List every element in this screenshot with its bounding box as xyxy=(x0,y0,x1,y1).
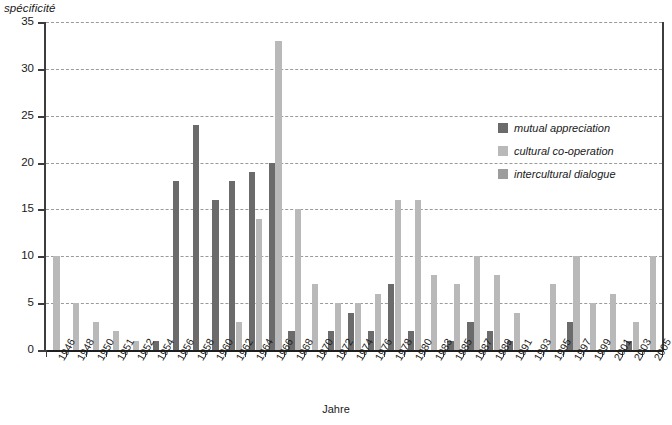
bar xyxy=(193,125,199,350)
y-axis-tick xyxy=(38,69,46,71)
bar xyxy=(269,163,275,350)
clipped-header-strip xyxy=(0,0,672,7)
bar xyxy=(229,181,235,350)
y-axis-tick xyxy=(38,256,46,258)
bar xyxy=(295,209,301,350)
bar xyxy=(212,200,218,350)
y-axis-tick xyxy=(38,350,46,352)
plot-inner: 05101520253035 xyxy=(46,22,662,350)
y-axis-tick-label: 30 xyxy=(21,63,34,75)
gridline xyxy=(46,22,662,23)
plot-area: 05101520253035 mutual appreciation cultu… xyxy=(44,22,664,352)
bar xyxy=(650,256,656,350)
gridline xyxy=(46,116,662,117)
chart-legend: mutual appreciation cultural co-operatio… xyxy=(498,122,616,180)
gridline xyxy=(46,69,662,70)
legend-swatch-cultural-co-operation xyxy=(498,146,508,156)
legend-item: mutual appreciation xyxy=(498,122,616,134)
legend-label: cultural co-operation xyxy=(514,145,614,157)
y-axis-tick xyxy=(38,303,46,305)
bar xyxy=(395,200,401,350)
y-axis-tick xyxy=(38,209,46,211)
legend-label: intercultural dialogue xyxy=(514,168,616,180)
y-axis-tick-label: 25 xyxy=(21,110,34,122)
legend-label: mutual appreciation xyxy=(514,122,610,134)
bar xyxy=(474,256,480,350)
legend-swatch-mutual-appreciation xyxy=(498,123,508,133)
y-axis-tick-label: 20 xyxy=(21,157,34,169)
bar xyxy=(173,181,179,350)
bar xyxy=(454,284,460,350)
bar xyxy=(256,219,262,350)
gridline xyxy=(46,209,662,210)
bar xyxy=(249,172,255,350)
legend-item: cultural co-operation xyxy=(498,145,616,157)
bar xyxy=(494,275,500,350)
y-axis-tick-label: 35 xyxy=(21,16,34,28)
bar xyxy=(415,200,421,350)
gridline xyxy=(46,256,662,257)
y-axis-tick-label: 15 xyxy=(21,204,34,216)
y-axis-tick-label: 0 xyxy=(28,344,34,356)
y-axis-tick-label: 10 xyxy=(21,251,34,263)
bar xyxy=(275,41,281,350)
y-axis-tick xyxy=(38,22,46,24)
y-axis-tick xyxy=(38,116,46,118)
bar xyxy=(53,256,59,350)
y-axis-title: spécificité xyxy=(4,2,56,14)
bar xyxy=(573,256,579,350)
legend-item: intercultural dialogue xyxy=(498,168,616,180)
bar xyxy=(431,275,437,350)
y-axis-tick xyxy=(38,163,46,165)
legend-swatch-intercultural-dialogue xyxy=(498,169,508,179)
x-axis-title: Jahre xyxy=(0,403,672,415)
x-axis-tick xyxy=(46,350,47,357)
y-axis-tick-label: 5 xyxy=(28,297,34,309)
